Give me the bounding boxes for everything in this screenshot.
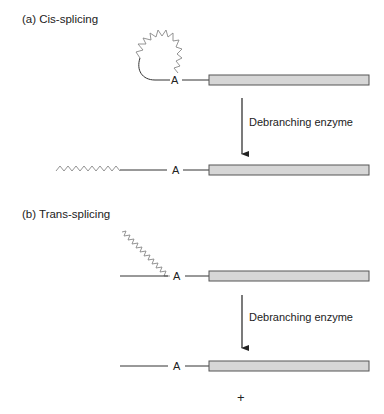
panel-b-plus-sign: + [237,390,245,405]
panel-a-linear-intron-zigzag [56,166,120,171]
panel-b-branch-a: A [173,270,181,282]
panel-b-product-a: A [173,360,181,372]
panel-a-exon-bar [209,75,369,85]
splicing-diagram: A A A A + [0,0,384,414]
panel-a-lariat [136,30,182,80]
panel-a-product-exon-bar [209,165,369,175]
panel-a-branch-a: A [171,74,179,86]
panel-b-branched-intron-zigzag [122,231,170,276]
panel-b-product-exon-bar [209,361,369,371]
panel-a-product-a: A [172,164,180,176]
panel-b-exon-bar [209,271,369,281]
lariat-intron-zigzag [136,30,182,73]
